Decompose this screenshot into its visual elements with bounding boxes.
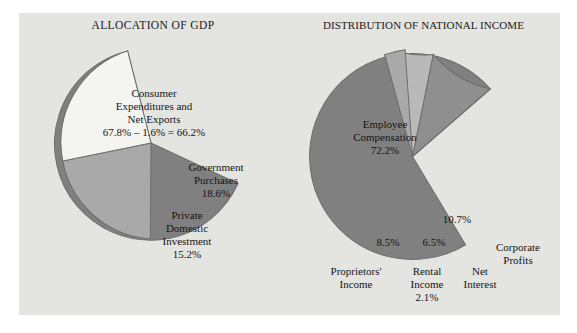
gdp-label-consumer-value: 67.8% – 1.6% = 66.2% <box>69 126 239 139</box>
gdp-label-government-line2: Purchases <box>162 174 270 187</box>
gdp-label-government-line1: Government <box>162 161 270 174</box>
gdp-chart-title: ALLOCATION OF GDP <box>19 19 287 31</box>
income-label-net-interest-line1: Net <box>451 265 509 278</box>
income-label-corporate-line1: Corporate <box>475 241 561 254</box>
income-label-rental: Rental Income 2.1% <box>397 265 457 304</box>
figure-panel: ALLOCATION OF GDP Consumer Expenditures … <box>19 13 560 315</box>
income-label-rental-value: 2.1% <box>397 291 457 304</box>
income-label-proprietors-pct: 8.5% <box>370 236 406 249</box>
income-label-proprietors: Proprietors' Income <box>315 265 397 291</box>
gdp-label-consumer-line2: Expenditures and <box>69 100 239 113</box>
income-label-rental-line1: Rental <box>397 265 457 278</box>
income-label-corporate: Corporate Profits <box>475 241 561 267</box>
gdp-label-private-line1: Private <box>139 209 235 222</box>
gdp-label-private: Private Domestic Investment 15.2% <box>139 209 235 261</box>
gdp-label-consumer: Consumer Expenditures and Net Exports 67… <box>69 87 239 139</box>
gdp-label-private-value: 15.2% <box>139 248 235 261</box>
income-label-net-interest: Net Interest <box>451 265 509 291</box>
income-chart-title: DISTRIBUTION OF NATIONAL INCOME <box>287 19 560 31</box>
income-label-employee-line1: Employee <box>325 118 445 131</box>
gdp-label-consumer-line1: Consumer <box>69 87 239 100</box>
gdp-chart-block: ALLOCATION OF GDP Consumer Expenditures … <box>19 13 287 315</box>
income-label-net-interest-line2: Interest <box>451 278 509 291</box>
income-label-proprietors-line1: Proprietors' <box>315 265 397 278</box>
income-label-rental-line2: Income <box>397 278 457 291</box>
gdp-label-private-line3: Investment <box>139 235 235 248</box>
income-label-net-interest-pct: 6.5% <box>416 236 452 249</box>
gdp-label-consumer-line3: Net Exports <box>69 113 239 126</box>
gdp-label-government: Government Purchases 18.6% <box>162 161 270 200</box>
income-label-proprietors-line2: Income <box>315 278 397 291</box>
income-label-employee-line2: Compensation <box>325 131 445 144</box>
gdp-label-government-value: 18.6% <box>162 187 270 200</box>
income-label-employee: Employee Compensation 72.2% <box>325 118 445 157</box>
gdp-label-private-line2: Domestic <box>139 222 235 235</box>
income-label-employee-value: 72.2% <box>325 144 445 157</box>
income-label-corporate-pct: 10.7% <box>437 213 477 226</box>
